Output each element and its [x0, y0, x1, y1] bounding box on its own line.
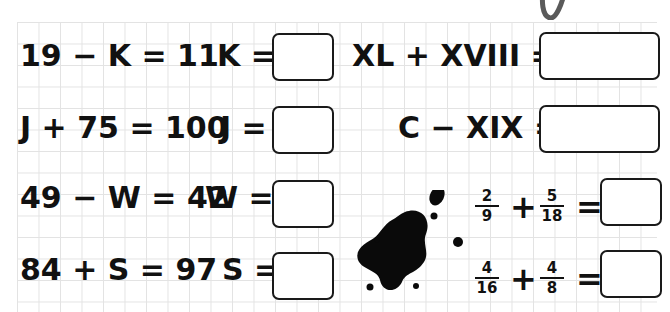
roman-expression-1: XL + XVIII = — [352, 36, 556, 76]
answer-label-w: W = — [205, 178, 274, 218]
equation-3: 49 − W = 42 — [20, 178, 229, 218]
answer-box-j[interactable] — [272, 106, 334, 154]
answer-label-k: K = — [217, 36, 276, 76]
equation-4: 84 + S = 97 — [20, 250, 217, 290]
denominator: 18 — [542, 208, 563, 224]
denominator: 8 — [547, 280, 557, 296]
answer-label-j: J = — [220, 108, 267, 148]
denominator: 16 — [477, 280, 498, 296]
answer-label-s: S = — [222, 250, 279, 290]
fraction-2-9: 2 9 — [475, 188, 499, 224]
answer-box-fraction-1[interactable] — [600, 178, 662, 226]
numerator: 5 — [547, 188, 557, 204]
answer-box-s[interactable] — [272, 252, 334, 300]
equals-operator: = — [576, 261, 603, 297]
denominator: 9 — [482, 208, 492, 224]
equation-2: J + 75 = 100 — [20, 108, 228, 148]
equation-1: 19 − K = 11 — [20, 36, 219, 76]
fraction-4-16: 4 16 — [475, 260, 499, 296]
plus-operator: + — [510, 261, 537, 297]
numerator: 2 — [482, 188, 492, 204]
answer-box-fraction-2[interactable] — [600, 250, 662, 298]
answer-box-k[interactable] — [272, 33, 334, 81]
numerator: 4 — [547, 260, 557, 276]
plus-operator: + — [510, 189, 537, 225]
numerator: 4 — [482, 260, 492, 276]
answer-box-roman-2[interactable] — [539, 105, 660, 153]
roman-expression-2: C − XIX = — [398, 108, 559, 148]
equals-operator: = — [576, 189, 603, 225]
ink-blot-icon — [350, 190, 480, 300]
fraction-5-18: 5 18 — [540, 188, 564, 224]
answer-box-roman-1[interactable] — [539, 32, 660, 80]
answer-box-w[interactable] — [272, 180, 334, 228]
fraction-4-8: 4 8 — [540, 260, 564, 296]
pencil-stroke-icon — [538, 0, 568, 20]
